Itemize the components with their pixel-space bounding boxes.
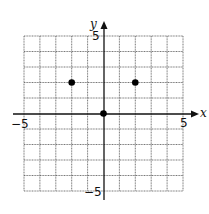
x-min-tick-label: −5 — [11, 117, 29, 131]
y-min-tick-label: −5 — [84, 185, 102, 199]
data-point — [132, 79, 139, 86]
axes — [13, 21, 199, 200]
x-axis-label: x — [200, 106, 207, 120]
coordinate-plane: x y −5 5 5 −5 — [0, 0, 209, 214]
x-axis-arrow-icon — [191, 111, 199, 118]
y-axis-arrow-icon — [101, 21, 108, 29]
x-max-tick-label: 5 — [180, 116, 188, 130]
data-point — [68, 79, 75, 86]
y-max-tick-label: 5 — [92, 29, 100, 43]
data-point — [100, 110, 107, 117]
